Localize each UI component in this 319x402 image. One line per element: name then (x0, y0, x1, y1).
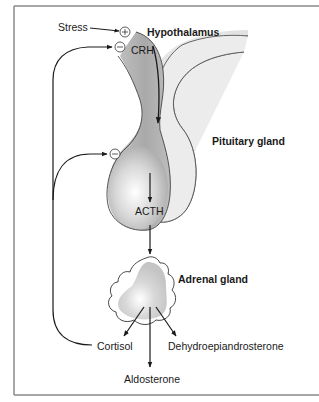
hypothalamus-label: Hypothalamus (147, 26, 219, 38)
pituitary-label: Pituitary gland (212, 135, 285, 147)
acth-label: ACTH (135, 205, 164, 217)
inhibit-sign-hypothalamus (115, 42, 125, 52)
stimulate-sign (120, 27, 130, 37)
stress-label: Stress (58, 21, 88, 33)
adrenal-label: Adrenal gland (178, 273, 248, 285)
aldosterone-label: Aldosterone (124, 373, 180, 385)
cortisol-feedback-pituitary (53, 154, 107, 200)
stress-arrow (90, 28, 119, 31)
dhea-label: Dehydroepiandrosterone (168, 340, 284, 352)
adrenal-gland-shape (109, 257, 176, 325)
crh-label: CRH (131, 44, 154, 56)
hpa-axis-diagram: Stress Hypothalamus CRH Pituitary gland … (0, 0, 319, 402)
cortisol-feedback-hypothalamus (53, 47, 112, 345)
cortisol-label: Cortisol (97, 340, 133, 352)
inhibit-sign-pituitary (110, 149, 120, 159)
